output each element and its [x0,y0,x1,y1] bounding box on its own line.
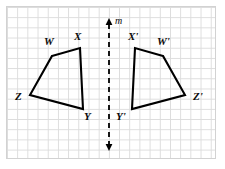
reflection-figure: WXYZW'X'Y'Z' m [0,0,225,169]
vertex-label-y: Y [84,111,91,122]
vertex-label-y-prime: Y' [116,111,126,122]
mirror-line-label: m [115,16,122,26]
mirror-line-arrow-top [106,18,113,25]
vertex-label-w: W [44,36,54,47]
vertex-label-z: Z [15,91,22,102]
vertex-label-w-prime: W' [157,36,170,47]
mirror-line-arrow-bottom [106,144,113,151]
figure-drawing [0,0,225,169]
vertex-label-z-prime: Z' [193,91,203,102]
quadrilateral-wxyz-outline [30,48,83,109]
vertex-label-x-prime: X' [128,31,138,42]
vertex-label-x: X [74,31,81,42]
quadrilateral-wxyz-prime-outline [132,48,185,109]
